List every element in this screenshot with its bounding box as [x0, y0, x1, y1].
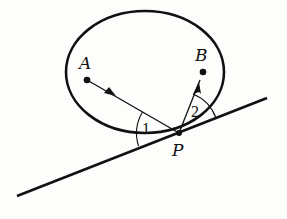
point-b-dot	[200, 69, 207, 76]
point-a-dot	[84, 77, 91, 84]
label-b: B	[194, 45, 208, 65]
label-angle-2: 2	[191, 103, 199, 120]
label-a: A	[77, 53, 91, 73]
label-angle-1: 1	[142, 120, 150, 137]
label-p: P	[171, 140, 184, 160]
incident-arrow-icon	[104, 87, 116, 96]
reflection-diagram: A B P 1 2	[0, 0, 287, 219]
incident-ray	[87, 80, 179, 133]
reflected-arrow-icon	[193, 82, 201, 94]
point-p-dot	[176, 130, 182, 136]
